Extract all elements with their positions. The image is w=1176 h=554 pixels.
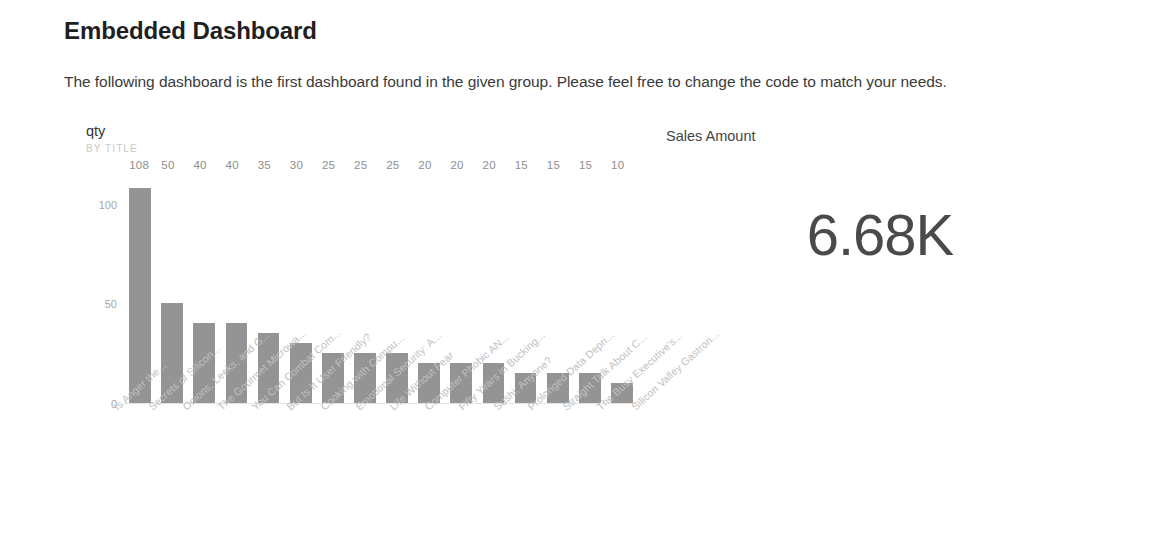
- bar-value-label: 15: [515, 159, 528, 171]
- x-axis-category-labels: Is Anger the...Secrets of Silicon...Onio…: [124, 408, 676, 518]
- bar-value-label: 15: [579, 159, 592, 171]
- card-value: 6.68K: [660, 206, 1100, 264]
- bar-value-label: 15: [547, 159, 560, 171]
- y-axis-tick: 50: [105, 298, 117, 310]
- bar-value-label: 25: [386, 159, 399, 171]
- chart-subtitle: BY TITLE: [86, 143, 138, 154]
- bar-value-label: 10: [611, 159, 624, 171]
- card-title: Sales Amount: [666, 128, 755, 144]
- page-title: Embedded Dashboard: [64, 17, 317, 45]
- sales-amount-card[interactable]: Sales Amount 6.68K: [660, 112, 1100, 342]
- y-axis: 050100: [86, 174, 124, 404]
- bar-value-label: 40: [226, 159, 239, 171]
- bar-value-label: 20: [483, 159, 496, 171]
- bar-value-label: 50: [161, 159, 174, 171]
- bar-value-label: 40: [193, 159, 206, 171]
- page-intro-text: The following dashboard is the first das…: [64, 73, 947, 91]
- bar-value-label: 30: [290, 159, 303, 171]
- bar-value-label: 25: [354, 159, 367, 171]
- bar-chart-tile[interactable]: qty BY TITLE 050100 10850404035302525252…: [64, 112, 644, 512]
- embedded-dashboard[interactable]: qty BY TITLE 050100 10850404035302525252…: [0, 112, 1176, 554]
- bar-value-label: 20: [450, 159, 463, 171]
- bar-value-label: 108: [129, 159, 149, 171]
- bar-value-label: 25: [322, 159, 335, 171]
- bar-value-label: 20: [418, 159, 431, 171]
- bar-value-label: 35: [258, 159, 271, 171]
- y-axis-tick: 100: [99, 199, 117, 211]
- chart-title: qty: [86, 123, 105, 139]
